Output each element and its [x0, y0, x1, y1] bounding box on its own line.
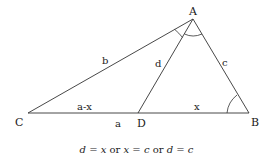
side-label-x: x	[194, 101, 200, 112]
caption: d = x or x = c or d = c	[0, 144, 273, 155]
vertex-label-a: A	[188, 5, 198, 18]
triangle-diagram: A B C D b c d a-x x a	[0, 0, 273, 160]
vertex-label-d: D	[137, 117, 146, 130]
caption-or-1: or	[106, 144, 123, 155]
angle-arc-abd	[227, 95, 237, 113]
side-label-a: a	[115, 118, 121, 129]
caption-eq-2: =	[129, 144, 144, 155]
angle-arc-dab	[185, 34, 203, 36]
side-ab	[193, 19, 249, 113]
segment-ad	[138, 19, 193, 113]
vertex-label-b: B	[251, 116, 259, 129]
caption-eq-3: =	[173, 144, 188, 155]
side-label-b: b	[102, 55, 108, 66]
side-label-c: c	[222, 57, 228, 68]
caption-eq-1: =	[86, 144, 101, 155]
angle-arc-cad	[175, 29, 183, 37]
side-label-d: d	[155, 58, 162, 69]
side-label-a-minus-x: a-x	[77, 101, 92, 112]
side-ac	[28, 19, 193, 113]
caption-or-2: or	[150, 144, 167, 155]
caption-rhs-3: c	[188, 144, 194, 155]
vertex-label-c: C	[15, 116, 23, 129]
